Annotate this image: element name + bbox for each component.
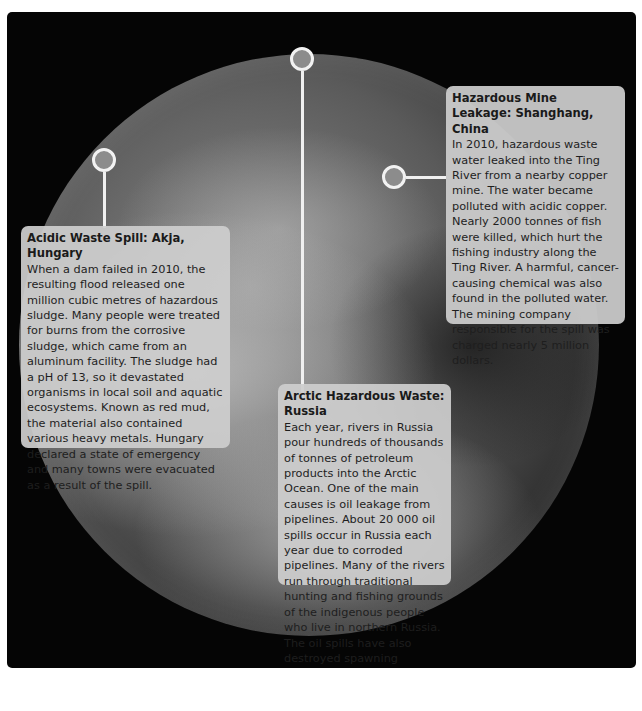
hungary-card-body: When a dam failed in 2010, the resulting… (27, 262, 224, 493)
hungary-connector-line (103, 172, 106, 228)
china-card-title: Hazardous Mine Leakage: Shanghang, China (452, 91, 619, 137)
russia-connector-line (301, 71, 304, 399)
russia-info-card: Arctic Hazardous Waste: Russia Each year… (278, 384, 451, 585)
earth-image-frame: Acidic Waste Spill: Akja, Hungary When a… (7, 12, 636, 668)
hungary-card-title: Acidic Waste Spill: Akja, Hungary (27, 231, 224, 262)
china-location-marker (382, 165, 406, 189)
china-connector-line (406, 176, 446, 179)
hungary-location-marker (92, 148, 116, 172)
hungary-info-card: Acidic Waste Spill: Akja, Hungary When a… (21, 226, 230, 448)
china-info-card: Hazardous Mine Leakage: Shanghang, China… (446, 86, 625, 324)
russia-location-marker (290, 47, 314, 71)
russia-card-title: Arctic Hazardous Waste: Russia (284, 389, 445, 420)
russia-card-body: Each year, rivers in Russia pour hundred… (284, 420, 445, 668)
china-card-body: In 2010, hazardous waste water leaked in… (452, 137, 619, 368)
